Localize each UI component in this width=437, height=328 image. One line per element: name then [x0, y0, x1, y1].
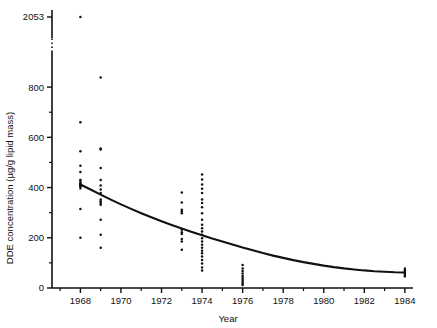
data-point	[181, 191, 184, 194]
fitted-curve-path	[80, 185, 405, 273]
data-point	[201, 223, 204, 226]
data-point	[201, 198, 204, 201]
data-point	[404, 269, 407, 272]
data-points	[79, 16, 406, 286]
data-point	[201, 173, 204, 176]
data-point	[241, 284, 244, 287]
data-point	[201, 269, 204, 272]
y-tick-label: 2053	[23, 11, 44, 22]
data-point	[404, 272, 407, 275]
x-tick-label: 1976	[232, 295, 253, 306]
data-point	[201, 262, 204, 265]
data-point	[181, 240, 184, 243]
x-tick-label: 1984	[394, 295, 415, 306]
x-tick-label: 1980	[313, 295, 334, 306]
x-tick-label: 1970	[110, 295, 131, 306]
fitted-curve	[80, 180, 405, 278]
data-point	[201, 244, 204, 247]
data-point	[79, 121, 82, 124]
data-point	[79, 164, 82, 167]
data-point	[201, 259, 204, 262]
y-tick-label: 0	[39, 282, 44, 293]
x-tick-label: 1972	[151, 295, 172, 306]
x-tick-label: 1982	[354, 295, 375, 306]
data-point	[99, 167, 102, 170]
data-point	[181, 238, 184, 241]
data-point	[181, 228, 184, 231]
dde-concentration-scatter-chart: 02004006008002053 1968197019721974197619…	[0, 0, 437, 328]
data-point	[99, 247, 102, 250]
plot-area	[79, 16, 406, 286]
data-point	[99, 192, 102, 195]
data-point	[201, 206, 204, 209]
data-point	[201, 230, 204, 233]
data-point	[201, 183, 204, 186]
y-axis: 02004006008002053	[23, 10, 52, 293]
data-point	[201, 255, 204, 258]
data-point	[201, 247, 204, 250]
data-point	[99, 76, 102, 79]
data-point	[79, 171, 82, 174]
data-point	[201, 250, 204, 253]
data-point	[404, 275, 407, 278]
data-point	[201, 212, 204, 215]
x-axis: 196819701972197419761978198019821984	[52, 288, 415, 306]
chart-figure: 02004006008002053 1968197019721974197619…	[0, 0, 437, 328]
x-tick-label: 1974	[192, 295, 213, 306]
y-axis-title: DDE concentration (µg/g lipid mass)	[4, 112, 15, 264]
x-axis-title: Year	[218, 313, 237, 324]
data-point	[201, 192, 204, 195]
y-tick-label: 200	[28, 232, 44, 243]
data-point	[181, 201, 184, 204]
data-point	[201, 252, 204, 255]
data-point	[201, 227, 204, 230]
data-point	[79, 150, 82, 153]
data-point	[99, 203, 102, 206]
data-point	[201, 266, 204, 269]
data-point	[201, 202, 204, 205]
y-tick-label: 800	[28, 82, 44, 93]
data-point	[241, 272, 244, 275]
y-tick-label: 600	[28, 132, 44, 143]
data-point	[79, 179, 82, 182]
data-point	[241, 267, 244, 270]
y-tick-label: 400	[28, 182, 44, 193]
data-point	[181, 249, 184, 252]
data-point	[79, 208, 82, 211]
data-point	[181, 212, 184, 215]
data-point	[79, 237, 82, 240]
data-point	[201, 188, 204, 191]
data-point	[201, 240, 204, 243]
data-point	[201, 237, 204, 240]
data-point	[99, 184, 102, 187]
data-point	[99, 188, 102, 191]
data-point	[79, 185, 82, 188]
data-point	[241, 264, 244, 267]
data-point	[79, 16, 82, 19]
data-point	[181, 233, 184, 236]
data-point	[99, 179, 102, 182]
data-point	[99, 218, 102, 221]
data-point	[99, 234, 102, 237]
data-point	[201, 218, 204, 221]
data-point	[241, 270, 244, 273]
x-tick-label: 1978	[273, 295, 294, 306]
data-point	[201, 178, 204, 181]
data-point	[99, 148, 102, 151]
data-point	[201, 234, 204, 237]
x-tick-label: 1968	[70, 295, 91, 306]
